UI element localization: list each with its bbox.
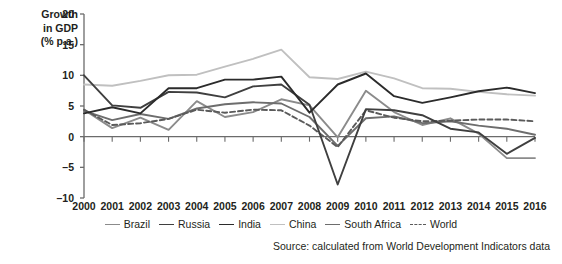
legend-item-brazil[interactable]: Brazil — [105, 218, 150, 230]
legend-label: India — [238, 218, 261, 230]
legend-swatch-south-africa — [325, 224, 340, 225]
legend-swatch-china — [270, 224, 285, 225]
source-note: Source: calculated from World Developmen… — [273, 240, 550, 252]
series-line-russia — [84, 75, 535, 184]
gdp-growth-chart: Growth in GDP (% p.a.) 20151050–5–10 200… — [0, 0, 562, 264]
legend-swatch-russia — [159, 224, 174, 225]
legend-item-china[interactable]: China — [270, 218, 316, 230]
legend-swatch-india — [219, 224, 234, 225]
legend-swatch-world — [410, 224, 426, 225]
legend-item-world[interactable]: World — [410, 218, 457, 230]
legend-item-russia[interactable]: Russia — [159, 218, 210, 230]
legend-label: China — [289, 218, 316, 230]
legend-label: Brazil — [124, 218, 150, 230]
legend-item-india[interactable]: India — [219, 218, 261, 230]
series-line-china — [84, 50, 535, 96]
chart-legend: BrazilRussiaIndiaChinaSouth AfricaWorld — [0, 218, 562, 230]
legend-label: Russia — [178, 218, 210, 230]
legend-item-south-africa[interactable]: South Africa — [325, 218, 401, 230]
legend-swatch-brazil — [105, 224, 120, 225]
legend-label: South Africa — [344, 218, 401, 230]
legend-label: World — [430, 218, 457, 230]
